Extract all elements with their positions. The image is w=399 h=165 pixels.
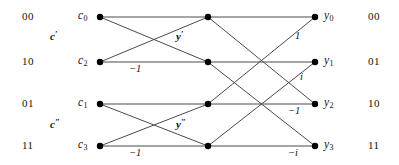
node-label-y3: y3: [324, 139, 333, 152]
node-label-y2-sub: 2: [329, 101, 333, 110]
wire-layer: [0, 0, 399, 165]
node-dot-m2: [205, 101, 211, 107]
node-label-c2: c2: [78, 55, 87, 68]
node-label-c3: c3: [78, 139, 87, 152]
node-label-c1: c1: [78, 97, 87, 110]
vector-label-c-prime-mark: ′: [55, 29, 57, 39]
node-label-c0-sub: 0: [83, 14, 87, 23]
node-label-c2-sub: 2: [83, 59, 87, 68]
node-label-c1-sub: 1: [83, 101, 87, 110]
node-label-y0: y0: [324, 10, 333, 23]
output-bits-11: 11: [368, 140, 380, 151]
node-dot-y1: [312, 59, 318, 65]
node-dot-c3: [97, 143, 103, 149]
node-dot-c0: [97, 14, 103, 20]
node-label-y1-sub: 1: [329, 59, 333, 68]
vector-label-c-dprime-mark: ″: [55, 117, 60, 127]
input-bits-10: 10: [22, 56, 34, 67]
vector-label-c-dprime: c″: [50, 118, 60, 130]
output-bits-00: 00: [368, 11, 380, 22]
butterfly-diagram: 00 10 01 11 00 01 10 11 c0 c2 c1 c3 y0 y…: [0, 0, 399, 165]
output-bits-10: 10: [368, 98, 380, 109]
node-dot-y0: [312, 14, 318, 20]
node-label-y1: y1: [324, 55, 333, 68]
edge-weight-stage1-c2: −1: [129, 64, 141, 75]
vector-label-c-prime: c′: [50, 30, 57, 42]
node-dot-y2: [312, 101, 318, 107]
vector-label-y-dprime: y″: [176, 118, 186, 130]
input-bits-00: 00: [22, 11, 34, 22]
node-dot-m1: [205, 59, 211, 65]
vector-label-y-prime: y′: [176, 30, 183, 42]
input-bits-01: 01: [22, 98, 34, 109]
node-label-c3-sub: 3: [83, 143, 87, 152]
output-bits-01: 01: [368, 56, 380, 67]
node-label-y3-sub: 3: [329, 143, 333, 152]
node-dot-m0: [205, 14, 211, 20]
node-label-c0: c0: [78, 10, 87, 23]
vector-label-y-dprime-mark: ″: [181, 117, 186, 127]
node-dot-y3: [312, 143, 318, 149]
input-bits-11: 11: [22, 140, 34, 151]
edge-weight-stage2-y0: 1: [295, 31, 300, 42]
edge-weight-stage2-y3: −i: [288, 148, 298, 159]
edge-weight-stage1-c3: −1: [129, 148, 141, 159]
node-dot-c1: [97, 101, 103, 107]
node-dot-m3: [205, 143, 211, 149]
node-label-y2: y2: [324, 97, 333, 110]
edge-weight-stage2-y2: −1: [288, 106, 300, 117]
node-label-y0-sub: 0: [329, 14, 333, 23]
node-dot-c2: [97, 59, 103, 65]
edge-weight-stage2-y1: i: [300, 72, 303, 83]
vector-label-y-prime-mark: ′: [181, 29, 183, 39]
